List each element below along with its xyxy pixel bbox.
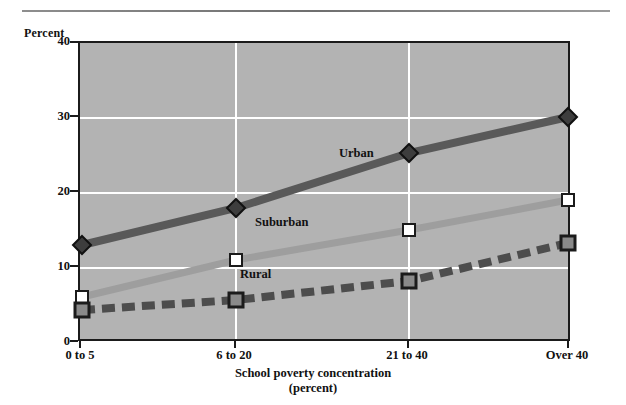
plot-area: Urban Suburban Rural	[78, 41, 570, 341]
x-tick-label: 6 to 20	[216, 348, 251, 363]
series-label-rural: Rural	[240, 267, 271, 282]
y-axis-tick-labels: 0 10 20 30 40	[34, 41, 70, 341]
suburban-marker	[403, 224, 415, 236]
suburban-line	[82, 200, 568, 297]
urban-marker	[73, 236, 91, 254]
series-label-urban: Urban	[339, 146, 374, 161]
urban-marker	[400, 144, 418, 162]
y-tick-label: 40	[58, 34, 71, 49]
x-tick-mark	[79, 341, 81, 348]
rural-marker	[402, 274, 416, 288]
y-tick-mark	[70, 265, 78, 267]
x-axis-title-sub: (percent)	[0, 381, 626, 396]
y-tick-label: 20	[58, 184, 71, 199]
x-tick-mark	[567, 341, 569, 348]
rural-marker	[229, 293, 243, 307]
y-tick-mark	[70, 41, 78, 43]
urban-marker	[227, 199, 245, 217]
suburban-marker	[76, 291, 88, 303]
x-axis-title-main: School poverty concentration	[235, 366, 391, 380]
y-tick-mark	[70, 115, 78, 117]
chart-page: Percent 0 10 20 30 40	[0, 0, 626, 405]
rural-marker	[75, 303, 89, 317]
x-tick-label: 21 to 40	[386, 348, 428, 363]
x-axis-title: School poverty concentration (percent)	[0, 366, 626, 396]
plot-inner: Urban Suburban Rural	[80, 43, 568, 339]
series-label-suburban: Suburban	[255, 215, 309, 230]
urban-marker	[559, 108, 577, 126]
y-tick-mark	[70, 190, 78, 192]
y-tick-label: 10	[58, 259, 71, 274]
y-tick-mark	[70, 340, 78, 342]
suburban-marker	[562, 194, 574, 206]
rural-marker	[561, 236, 575, 250]
series-lines	[80, 43, 572, 343]
x-tick-label: Over 40	[546, 348, 588, 363]
header-rule	[22, 10, 610, 12]
y-tick-label: 30	[58, 109, 71, 124]
x-tick-mark	[407, 341, 409, 348]
suburban-marker	[230, 254, 242, 266]
x-tick-label: 0 to 5	[65, 348, 94, 363]
urban-line	[82, 117, 568, 245]
x-tick-mark	[234, 341, 236, 348]
